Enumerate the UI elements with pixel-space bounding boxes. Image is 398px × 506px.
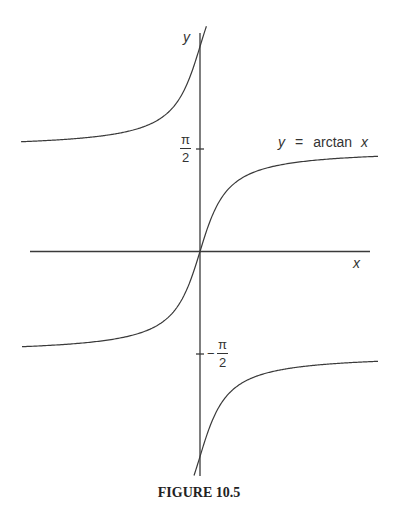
figure-caption: FIGURE 10.5 [0, 485, 398, 501]
curve-arctan-upper-branch [21, 26, 206, 141]
x-axis-label: x [353, 256, 360, 270]
tick-label-neg-pi-over-2: π 2 [217, 338, 228, 369]
tick-label-neg-sign: − [207, 347, 215, 360]
tick-label-pi-over-2: π 2 [180, 133, 191, 164]
y-axis-label: y [183, 30, 190, 44]
curve-arctan-lower-branch [194, 361, 378, 475]
equation-annotation: y = arctan x [278, 133, 368, 151]
arctan-plot [0, 0, 398, 506]
